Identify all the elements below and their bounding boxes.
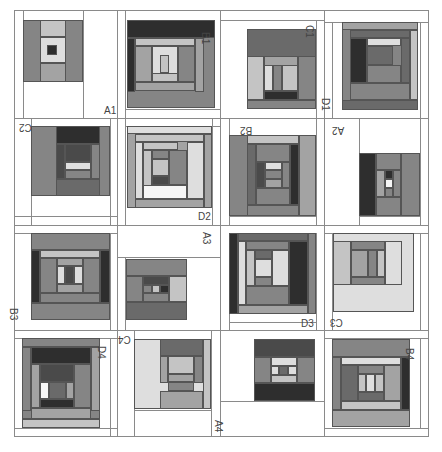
fabric-strip bbox=[143, 150, 152, 190]
fabric-strip bbox=[255, 259, 272, 277]
fabric-strip bbox=[31, 303, 110, 320]
fabric-strip bbox=[203, 339, 211, 409]
cut-line bbox=[110, 338, 111, 436]
fabric-strip bbox=[376, 170, 385, 197]
block-label: D2 bbox=[198, 212, 211, 222]
fabric-strip bbox=[254, 357, 271, 383]
fabric-strip bbox=[56, 144, 65, 179]
fabric-strip bbox=[66, 382, 74, 399]
cut-line bbox=[359, 216, 420, 217]
fabric-strip bbox=[358, 365, 384, 374]
block-label: A1 bbox=[104, 106, 116, 116]
block-label: D3 bbox=[301, 319, 314, 329]
fabric-strip bbox=[238, 241, 246, 305]
fabric-strip bbox=[308, 233, 316, 314]
cut-line bbox=[117, 257, 220, 258]
fabric-strip bbox=[194, 356, 203, 383]
cut-line bbox=[14, 10, 428, 11]
fabric-strip bbox=[127, 38, 135, 92]
fabric-strip bbox=[265, 179, 282, 188]
fabric-strip bbox=[332, 339, 410, 357]
fabric-strip bbox=[40, 63, 66, 82]
fabric-strip bbox=[332, 410, 410, 427]
fabric-strip bbox=[135, 142, 143, 199]
fabric-strip bbox=[40, 250, 100, 258]
fabric-strip bbox=[350, 38, 367, 83]
fabric-strip bbox=[342, 100, 418, 110]
cut-line bbox=[316, 118, 317, 225]
fabric-strip bbox=[342, 22, 418, 30]
cut-line bbox=[316, 20, 317, 118]
quilt-layout-diagram: A1B1C1D1C2D2B2A2B3A3D3C3D4C4A4B4 bbox=[0, 0, 442, 452]
fabric-strip bbox=[57, 284, 83, 293]
fabric-strip bbox=[168, 374, 194, 382]
fabric-strip bbox=[143, 285, 152, 293]
fabric-strip bbox=[31, 364, 40, 408]
fabric-strip bbox=[135, 134, 204, 142]
fabric-strip bbox=[271, 375, 297, 383]
block-label: C4 bbox=[118, 334, 131, 344]
fabric-strip bbox=[65, 162, 91, 170]
fabric-strip bbox=[47, 45, 57, 55]
fabric-strip bbox=[264, 91, 298, 100]
fabric-strip bbox=[135, 46, 152, 82]
cut-line bbox=[110, 118, 111, 225]
fabric-strip bbox=[385, 179, 393, 188]
fabric-strip bbox=[359, 153, 376, 216]
fabric-strip bbox=[143, 185, 187, 199]
cut-line bbox=[212, 118, 213, 225]
cut-line bbox=[324, 428, 428, 429]
block-label: C1 bbox=[304, 25, 314, 38]
fabric-strip bbox=[31, 250, 40, 303]
cut-line bbox=[14, 216, 117, 217]
block-label: A4 bbox=[213, 420, 223, 432]
fabric-strip bbox=[152, 150, 169, 159]
cut-line bbox=[14, 428, 117, 429]
fabric-strip bbox=[187, 142, 204, 199]
cut-line bbox=[14, 225, 428, 226]
fabric-strip bbox=[65, 144, 91, 162]
fabric-strip bbox=[22, 347, 31, 411]
cut-line bbox=[110, 233, 111, 330]
cut-line bbox=[14, 330, 428, 331]
fabric-strip bbox=[160, 356, 168, 383]
fabric-strip bbox=[160, 339, 203, 356]
fabric-strip bbox=[152, 176, 169, 185]
fabric-strip bbox=[366, 374, 375, 392]
fabric-strip bbox=[229, 233, 238, 314]
fabric-strip bbox=[22, 338, 100, 347]
fabric-strip bbox=[341, 357, 401, 365]
fabric-strip bbox=[31, 233, 110, 250]
fabric-strip bbox=[135, 199, 204, 208]
fabric-strip bbox=[254, 383, 315, 401]
fabric-strip bbox=[289, 241, 308, 305]
fabric-strip bbox=[385, 188, 393, 197]
fabric-strip bbox=[376, 153, 401, 170]
fabric-strip bbox=[169, 150, 187, 185]
fabric-strip bbox=[40, 364, 74, 382]
fabric-strip bbox=[100, 250, 110, 303]
cut-line bbox=[220, 401, 324, 402]
fabric-strip bbox=[246, 241, 289, 250]
fabric-strip bbox=[31, 347, 91, 364]
fabric-strip bbox=[127, 126, 212, 134]
fabric-strip bbox=[57, 266, 65, 284]
fabric-strip bbox=[247, 56, 264, 100]
fabric-strip bbox=[40, 20, 66, 37]
fabric-strip bbox=[333, 241, 351, 285]
fabric-strip bbox=[401, 153, 420, 216]
fabric-strip bbox=[282, 65, 298, 91]
fabric-strip bbox=[271, 357, 297, 366]
cut-line bbox=[117, 10, 118, 437]
fabric-strip bbox=[351, 241, 385, 250]
fabric-strip bbox=[255, 250, 272, 259]
fabric-strip bbox=[401, 357, 410, 410]
fabric-strip bbox=[74, 266, 83, 284]
fabric-strip bbox=[126, 259, 187, 276]
fabric-strip bbox=[40, 293, 100, 303]
cut-line bbox=[324, 10, 325, 437]
fabric-strip bbox=[126, 276, 143, 302]
fabric-strip bbox=[290, 144, 299, 205]
fabric-strip bbox=[152, 73, 178, 82]
fabric-strip bbox=[57, 258, 83, 266]
